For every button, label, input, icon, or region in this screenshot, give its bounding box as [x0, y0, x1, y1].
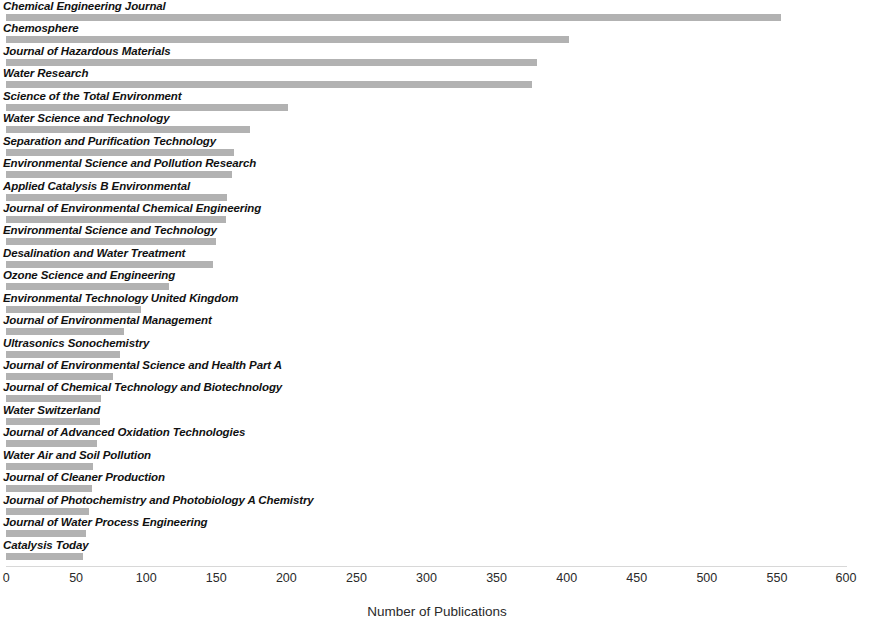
x-tick-label: 500 — [696, 571, 717, 585]
plot-area: Chemical Engineering JournalChemosphereJ… — [0, 0, 874, 566]
bar-track — [6, 440, 847, 447]
bar — [6, 261, 213, 268]
x-tick-label: 600 — [836, 571, 857, 585]
bar-category-label: Journal of Water Process Engineering — [3, 515, 208, 529]
x-tick-label: 200 — [276, 571, 297, 585]
bar-row: Chemical Engineering Journal — [0, 0, 874, 22]
bar — [6, 328, 124, 335]
bar — [6, 171, 232, 178]
bar-track — [6, 149, 847, 156]
bar — [6, 373, 113, 380]
bar — [6, 440, 97, 447]
bar — [6, 216, 226, 223]
bar — [6, 36, 569, 43]
x-tick-label: 250 — [346, 571, 367, 585]
x-tick-label: 150 — [206, 571, 227, 585]
bar-row: Water Air and Soil Pollution — [0, 449, 874, 471]
bar — [6, 508, 89, 515]
bar-category-label: Journal of Hazardous Materials — [3, 44, 171, 58]
bar — [6, 553, 83, 560]
bar — [6, 81, 532, 88]
horizontal-bar-chart: Chemical Engineering JournalChemosphereJ… — [0, 0, 874, 634]
bar — [6, 14, 781, 21]
bar-track — [6, 14, 847, 21]
bar-row: Environmental Science and Technology — [0, 224, 874, 246]
bar-category-label: Journal of Environmental Chemical Engine… — [3, 201, 261, 215]
bar — [6, 418, 100, 425]
bar — [6, 59, 537, 66]
bar-row: Separation and Purification Technology — [0, 135, 874, 157]
bar — [6, 194, 227, 201]
bar-category-label: Applied Catalysis B Environmental — [3, 179, 190, 193]
bar-track — [6, 126, 847, 133]
x-tick-label: 350 — [486, 571, 507, 585]
bar-track — [6, 261, 847, 268]
bar-category-label: Water Science and Technology — [3, 111, 170, 125]
bar-track — [6, 395, 847, 402]
bar-category-label: Ultrasonics Sonochemistry — [3, 336, 149, 350]
bar-category-label: Environmental Technology United Kingdom — [3, 291, 238, 305]
bar-track — [6, 283, 847, 290]
bar-row: Journal of Environmental Science and Hea… — [0, 359, 874, 381]
bar-row: Water Research — [0, 67, 874, 89]
bar-row: Water Science and Technology — [0, 112, 874, 134]
bar-row: Water Switzerland — [0, 404, 874, 426]
bar-track — [6, 238, 847, 245]
bar-track — [6, 418, 847, 425]
bar-row: Journal of Photochemistry and Photobiolo… — [0, 494, 874, 516]
bar-row: Environmental Science and Pollution Rese… — [0, 157, 874, 179]
bar — [6, 530, 86, 537]
bar-track — [6, 463, 847, 470]
x-tick-label: 50 — [69, 571, 83, 585]
bar-category-label: Water Research — [3, 66, 88, 80]
bar-category-label: Science of the Total Environment — [3, 89, 182, 103]
bar-track — [6, 553, 847, 560]
bar-category-label: Water Switzerland — [3, 403, 100, 417]
bar-row: Science of the Total Environment — [0, 90, 874, 112]
x-tick-label: 450 — [626, 571, 647, 585]
bar-row: Catalysis Today — [0, 539, 874, 561]
bar-row: Journal of Advanced Oxidation Technologi… — [0, 426, 874, 448]
bar-track — [6, 485, 847, 492]
bar — [6, 485, 92, 492]
bar-category-label: Environmental Science and Pollution Rese… — [3, 156, 256, 170]
bar — [6, 104, 288, 111]
x-tick-label: 0 — [3, 571, 10, 585]
bar-row: Journal of Hazardous Materials — [0, 45, 874, 67]
bar-category-label: Chemical Engineering Journal — [3, 0, 166, 13]
bar-category-label: Ozone Science and Engineering — [3, 268, 175, 282]
bar-category-label: Journal of Advanced Oxidation Technologi… — [3, 425, 245, 439]
bar-track — [6, 59, 847, 66]
x-axis-line — [6, 566, 847, 567]
bar — [6, 351, 120, 358]
x-tick-label: 400 — [556, 571, 577, 585]
bar-category-label: Separation and Purification Technology — [3, 134, 216, 148]
x-tick-label: 300 — [416, 571, 437, 585]
bar-category-label: Chemosphere — [3, 21, 79, 35]
bar-track — [6, 36, 847, 43]
bar-category-label: Water Air and Soil Pollution — [3, 448, 151, 462]
bar-category-label: Journal of Photochemistry and Photobiolo… — [3, 493, 314, 507]
bar-row: Ozone Science and Engineering — [0, 269, 874, 291]
bar-category-label: Environmental Science and Technology — [3, 223, 217, 237]
bar-track — [6, 373, 847, 380]
bar-category-label: Desalination and Water Treatment — [3, 246, 185, 260]
bar — [6, 283, 169, 290]
bar-row: Journal of Environmental Management — [0, 314, 874, 336]
bar-track — [6, 530, 847, 537]
bar — [6, 238, 216, 245]
bar-track — [6, 194, 847, 201]
bar-category-label: Journal of Environmental Science and Hea… — [3, 358, 282, 372]
bar — [6, 306, 141, 313]
bar — [6, 149, 234, 156]
bar-category-label: Catalysis Today — [3, 538, 89, 552]
bar-row: Journal of Water Process Engineering — [0, 516, 874, 538]
bar-row: Environmental Technology United Kingdom — [0, 292, 874, 314]
bar-row: Ultrasonics Sonochemistry — [0, 337, 874, 359]
bar — [6, 395, 101, 402]
bar-track — [6, 328, 847, 335]
bar-row: Desalination and Water Treatment — [0, 247, 874, 269]
bar-row: Journal of Cleaner Production — [0, 471, 874, 493]
bar-track — [6, 171, 847, 178]
bar-row: Journal of Environmental Chemical Engine… — [0, 202, 874, 224]
